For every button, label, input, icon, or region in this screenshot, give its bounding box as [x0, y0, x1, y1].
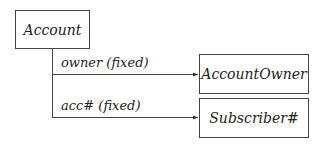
subscriber-node-label: Subscriber#: [209, 110, 298, 126]
subscriber-node: Subscriber#: [199, 98, 309, 138]
edge-label-owner: owner (fixed): [61, 55, 149, 70]
account-owner-node-label: AccountOwner: [201, 66, 306, 82]
account-node-label: Account: [24, 22, 82, 38]
account-node: Account: [15, 10, 90, 49]
account-owner-node: AccountOwner: [199, 54, 309, 94]
edge-label-acc: acc# (fixed): [61, 98, 141, 113]
